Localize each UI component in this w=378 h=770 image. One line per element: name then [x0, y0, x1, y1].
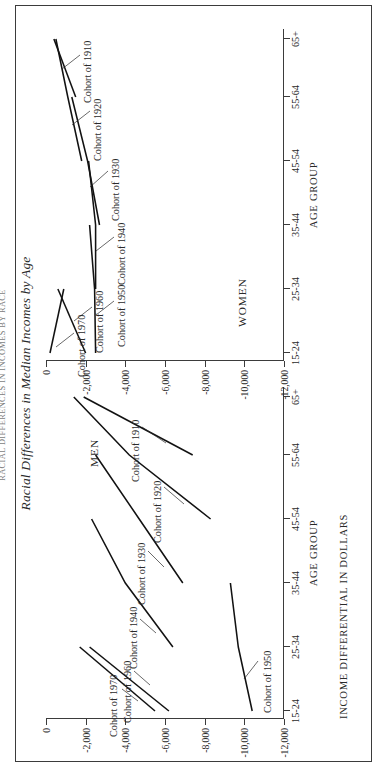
leader-line [244, 661, 258, 679]
series-label-cohort-1930: Cohort of 1930 [110, 159, 121, 221]
plot-area-women: 0 -2,000 -4,000 -6,000 -8,000 -10,000 -1… [46, 29, 284, 361]
leader-line [72, 111, 90, 125]
panel-men: 0 -2,000 -4,000 -6,000 -8,000 -10,000 -1… [46, 387, 346, 719]
series-label-cohort-1960: Cohort of 1960 [94, 291, 105, 353]
y-tick-label-women: -4,000 [120, 370, 131, 395]
x-tick-label-women: 35-44 [290, 213, 301, 237]
figure-page: RACIAL DIFFERENCES IN INCOMES BY RACE Ra… [0, 0, 378, 770]
y-tick-label-men: -12,000 [279, 728, 290, 758]
y-tick-label-men: -10,000 [239, 728, 250, 758]
x-tick-label-women: 15-24 [290, 341, 301, 365]
y-tick-men [284, 719, 285, 725]
series-label-cohort-1970: Cohort of 1970 [76, 315, 87, 377]
leader-line [142, 427, 166, 443]
y-tick-label-men: -4,000 [120, 728, 131, 753]
series-label-cohort-1910: Cohort of 1910 [130, 420, 141, 482]
leader-line [96, 237, 114, 251]
y-tick-label-women: -10,000 [239, 370, 250, 400]
x-tick-label-men: 65+ [290, 389, 301, 405]
series-line-cohort-1950 [230, 583, 252, 711]
y-tick-women [205, 361, 206, 367]
y-tick-men [205, 719, 206, 725]
series-label-cohort-1920: Cohort of 1920 [152, 481, 163, 543]
leader-line [90, 171, 108, 187]
figure-title: Racial Differences in Median Incomes by … [18, 6, 34, 761]
y-tick-label-men: -8,000 [199, 728, 210, 753]
y-tick-men [244, 719, 245, 725]
x-tick-label-women: 45-54 [290, 149, 301, 173]
y-tick-label-women: -12,000 [279, 370, 290, 400]
data-lines-men [46, 387, 284, 719]
series-label-cohort-1920: Cohort of 1920 [92, 99, 103, 161]
x-tick-label-men: 55-64 [290, 443, 301, 467]
series-line-cohort-1920 [56, 39, 82, 161]
panel-label-men: MEN [88, 439, 100, 467]
y-tick-women [165, 361, 166, 367]
series-line-cohort-1970 [50, 289, 64, 353]
leader-line [134, 671, 150, 685]
y-tick-women [46, 361, 47, 367]
y-tick-label-men: 0 [41, 728, 52, 733]
series-label-cohort-1940: Cohort of 1940 [128, 607, 139, 669]
y-tick-label-women: -6,000 [160, 370, 171, 395]
panel-women: 0 -2,000 -4,000 -6,000 -8,000 -10,000 -1… [46, 29, 346, 361]
y-tick-men [165, 719, 166, 725]
y-tick-women [284, 361, 285, 367]
x-tick-label-women: 55-64 [290, 85, 301, 109]
y-tick-women [125, 361, 126, 367]
series-label-cohort-1960: Cohort of 1960 [122, 661, 133, 723]
x-tick-label-men: 45-54 [290, 507, 301, 531]
x-tick-label-men: 25-34 [290, 635, 301, 659]
x-axis-title-women: AGE GROUP [308, 29, 319, 361]
series-label-cohort-1930: Cohort of 1930 [136, 543, 147, 605]
x-tick-label-women: 65+ [290, 31, 301, 47]
y-tick-label-women: -8,000 [199, 370, 210, 395]
leader-line [56, 333, 74, 347]
y-tick-men [86, 719, 87, 725]
series-label-cohort-1950: Cohort of 1950 [262, 651, 273, 713]
rotated-figure-canvas: Racial Differences in Median Incomes by … [16, 6, 371, 761]
running-head: RACIAL DIFFERENCES IN INCOMES BY RACE [0, 0, 12, 770]
x-tick-label-women: 25-34 [290, 277, 301, 301]
series-label-cohort-1940: Cohort of 1940 [116, 223, 127, 285]
y-tick-label-women: 0 [41, 370, 52, 375]
panel-label-women: WOMEN [236, 278, 248, 327]
plot-area-men: 0 -2,000 -4,000 -6,000 -8,000 -10,000 -1… [46, 387, 284, 719]
figure-body: Racial Differences in Median Incomes by … [16, 6, 371, 761]
x-tick-label-men: 15-24 [290, 699, 301, 723]
y-tick-women [244, 361, 245, 367]
leader-line [148, 551, 164, 567]
y-tick-men [46, 719, 47, 725]
leader-line [62, 55, 80, 69]
series-label-cohort-1910: Cohort of 1910 [82, 41, 93, 103]
x-tick-label-men: 35-44 [290, 571, 301, 595]
y-tick-label-men: -6,000 [160, 728, 171, 753]
series-label-cohort-1950: Cohort of 1950 [116, 285, 127, 347]
x-axis-title-men: AGE GROUP [308, 387, 319, 719]
series-label-cohort-1970: Cohort of 1970 [108, 675, 119, 737]
y-tick-label-men: -2,000 [80, 728, 91, 753]
